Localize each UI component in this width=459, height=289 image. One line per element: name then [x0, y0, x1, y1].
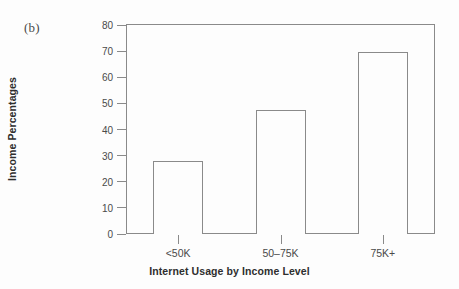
y-axis-tick: [117, 77, 126, 78]
y-axis-tick-label: 80: [102, 20, 113, 31]
y-axis-tick-label: 70: [102, 46, 113, 57]
x-axis-title: Internet Usage by Income Level: [0, 265, 459, 277]
plot-area: [127, 25, 434, 234]
bar: [153, 161, 203, 234]
y-axis-tick: [117, 181, 126, 182]
y-axis-tick: [117, 234, 126, 235]
y-axis-tick-label: 10: [102, 202, 113, 213]
x-axis-tick-label: 50–75K: [262, 247, 298, 259]
x-axis-tick-label: 75K+: [370, 247, 395, 259]
y-axis-tick-label: 40: [102, 124, 113, 135]
bar: [256, 110, 306, 234]
y-axis-tick-label: 20: [102, 176, 113, 187]
y-axis-tick-label: 50: [102, 98, 113, 109]
chart-figure: (b) Income Percentages Internet Usage by…: [0, 0, 459, 289]
y-axis-tick-label: 30: [102, 150, 113, 161]
y-axis-tick-label: 0: [107, 229, 113, 240]
x-axis-tick: [383, 235, 384, 244]
x-axis-tick: [281, 235, 282, 244]
y-axis-tick: [117, 207, 126, 208]
y-axis-tick: [117, 129, 126, 130]
y-axis-tick: [117, 25, 126, 26]
y-axis-title: Income Percentages: [6, 77, 18, 181]
panel-label: (b): [24, 20, 40, 36]
y-axis-tick: [117, 155, 126, 156]
y-axis-tick: [117, 51, 126, 52]
bar: [358, 52, 408, 234]
y-axis-tick: [117, 103, 126, 104]
y-axis-tick-label: 60: [102, 72, 113, 83]
x-axis-tick-label: <50K: [166, 247, 191, 259]
y-axis-title-container: Income Percentages: [0, 24, 24, 234]
x-axis-tick: [178, 235, 179, 244]
